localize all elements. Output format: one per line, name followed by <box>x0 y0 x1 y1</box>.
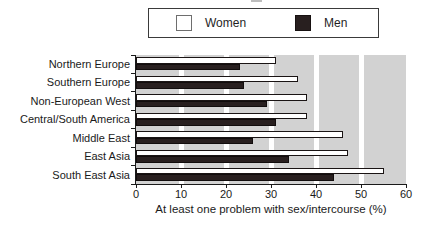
x-tick-label: 10 <box>166 188 196 200</box>
scan-artifact <box>251 0 262 2</box>
men-bar <box>136 82 244 89</box>
x-tick-label: 40 <box>301 188 331 200</box>
y-tick <box>131 110 135 111</box>
men-bar <box>136 119 276 126</box>
y-tick <box>131 128 135 129</box>
y-tick <box>131 73 135 74</box>
category-label: Central/South America <box>0 110 130 128</box>
category-label: Middle East <box>0 129 130 147</box>
y-tick <box>131 91 135 92</box>
men-bar <box>136 138 253 145</box>
legend-swatch-men <box>295 15 311 31</box>
y-tick <box>131 55 135 56</box>
legend-label: Women <box>205 17 246 29</box>
category-label: Southern Europe <box>0 73 130 91</box>
category-label: South East Asia <box>0 166 130 184</box>
category-label: East Asia <box>0 147 130 165</box>
x-tick-label: 60 <box>391 188 421 200</box>
y-tick <box>131 165 135 166</box>
gridline-40 <box>314 55 319 184</box>
legend-swatch-women <box>176 15 192 31</box>
men-bar <box>136 64 240 71</box>
legend-item-women: Women <box>176 9 246 37</box>
y-tick <box>131 147 135 148</box>
gridline-50 <box>359 55 364 184</box>
x-axis-title: At least one problem with sex/intercours… <box>136 203 406 216</box>
figure: WomenMen Northern EuropeSouthern EuropeN… <box>0 0 426 236</box>
y-tick <box>131 184 135 185</box>
x-tick-label: 30 <box>256 188 286 200</box>
x-tick-label: 50 <box>346 188 376 200</box>
category-label: Non-European West <box>0 92 130 110</box>
men-bar <box>136 174 334 181</box>
men-bar <box>136 156 289 163</box>
x-tick-label: 20 <box>211 188 241 200</box>
legend-item-men: Men <box>295 9 347 37</box>
men-bar <box>136 101 267 108</box>
legend: WomenMen <box>148 8 379 38</box>
category-label: Northern Europe <box>0 55 130 73</box>
x-tick-label: 0 <box>121 188 151 200</box>
legend-label: Men <box>324 17 347 29</box>
plot-area <box>135 55 406 185</box>
